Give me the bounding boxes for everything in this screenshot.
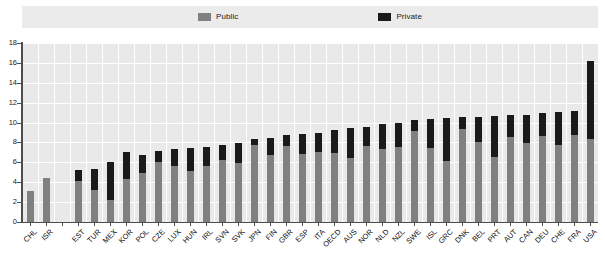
x-axis-tick: [366, 223, 367, 226]
bar-segment-public: [203, 166, 210, 222]
x-axis-tick-label: SVN: [214, 228, 230, 244]
bar-segment-public: [27, 191, 34, 222]
bar-segment-public: [267, 155, 274, 222]
x-axis-tick-label: AUT: [502, 228, 518, 244]
bar-segment-private: [475, 117, 482, 143]
bar-group: [203, 43, 210, 222]
bar-segment-private: [91, 169, 98, 190]
bar-group: [443, 43, 450, 222]
bar-segment-public: [491, 157, 498, 222]
x-axis-tick: [254, 223, 255, 226]
x-axis-tick: [510, 223, 511, 226]
bar-group: [411, 43, 418, 222]
x-axis-tick-label: EST: [71, 228, 87, 244]
x-axis-tick: [334, 223, 335, 226]
bar-segment-public: [283, 146, 290, 222]
bar-segment-private: [299, 134, 306, 155]
x-axis-tick: [110, 223, 111, 226]
x-axis-tick: [382, 223, 383, 226]
x-axis-tick-label: NLD: [374, 228, 390, 244]
bar-segment-public: [347, 158, 354, 222]
bar-segment-private: [171, 149, 178, 166]
bar-segment-public: [123, 179, 130, 222]
bar-segment-private: [587, 61, 594, 140]
bar-segment-private: [411, 120, 418, 131]
bar-segment-private: [267, 138, 274, 155]
x-axis-tick-label: GBR: [277, 228, 294, 245]
square-swatch-icon: [378, 13, 391, 21]
bar-group: [555, 43, 562, 222]
bar-group: [571, 43, 578, 222]
x-axis-tick: [526, 223, 527, 226]
bar-segment-private: [155, 151, 162, 162]
x-axis-tick: [318, 223, 319, 226]
x-axis-tick: [286, 223, 287, 226]
x-axis-tick-label: AUS: [342, 228, 358, 244]
bar-segment-private: [395, 123, 402, 148]
bar-segment-public: [315, 152, 322, 222]
bar-segment-private: [107, 162, 114, 200]
bar-group: [139, 43, 146, 222]
x-axis-tick: [558, 223, 559, 226]
bar-group: [91, 43, 98, 222]
bar-group: [267, 43, 274, 222]
x-axis-tick-label: NZL: [391, 228, 406, 243]
x-axis-tick-label: DEU: [534, 228, 551, 245]
bar-group: [475, 43, 482, 222]
legend-label-private: Private: [396, 13, 422, 21]
bar-group: [587, 43, 594, 222]
bar-segment-private: [379, 124, 386, 150]
x-axis-tick: [94, 223, 95, 226]
bar-segment-public: [299, 154, 306, 222]
bar-segment-private: [283, 135, 290, 147]
bar-segment-private: [539, 113, 546, 137]
bar-group: [235, 43, 242, 222]
bar-group: [539, 43, 546, 222]
legend-item-public: Public: [198, 13, 238, 21]
y-axis-tick-label: 8: [1, 138, 17, 146]
bar-segment-public: [395, 147, 402, 222]
x-axis-tick-label: SVK: [230, 228, 246, 244]
x-axis-tick-label: FRA: [566, 228, 582, 244]
bar-group: [27, 43, 34, 222]
x-axis-tick: [446, 223, 447, 226]
x-axis-tick-label: SWE: [405, 228, 422, 245]
bar-group: [315, 43, 322, 222]
x-axis-tick-label: CZE: [150, 228, 166, 244]
bar-segment-public: [459, 129, 466, 222]
bar-segment-private: [315, 133, 322, 153]
bar-segment-public: [539, 136, 546, 222]
bar-segment-private: [219, 145, 226, 160]
x-axis-tick: [350, 223, 351, 226]
bar-segment-private: [75, 170, 82, 181]
bar-segment-public: [427, 148, 434, 222]
x-axis-tick: [30, 223, 31, 226]
x-axis-tick: [158, 223, 159, 226]
x-axis-tick: [206, 223, 207, 226]
y-axis-tick-label: 6: [1, 158, 17, 166]
x-axis-tick: [494, 223, 495, 226]
bar-segment-public: [171, 166, 178, 222]
x-axis-tick: [126, 223, 127, 226]
x-axis-tick: [302, 223, 303, 226]
bar-segment-public: [555, 145, 562, 222]
x-axis-tick: [78, 223, 79, 226]
bars-layer: [22, 43, 598, 222]
y-axis-tick-label: 2: [1, 198, 17, 206]
x-axis-tick-label: JPN: [247, 228, 262, 243]
x-axis-tick: [270, 223, 271, 226]
x-axis-tick: [142, 223, 143, 226]
bar-group: [155, 43, 162, 222]
bar-segment-private: [555, 112, 562, 146]
bar-group: [187, 43, 194, 222]
bar-group: [459, 43, 466, 222]
bar-group: [507, 43, 514, 222]
x-axis-tick-label: POL: [134, 228, 150, 244]
bar-segment-private: [363, 127, 370, 147]
bar-segment-private: [331, 130, 338, 154]
bar-segment-public: [219, 160, 226, 222]
bar-group: [171, 43, 178, 222]
x-axis-tick-label: IRL: [201, 228, 215, 242]
bar-group: [283, 43, 290, 222]
bar-segment-private: [427, 119, 434, 149]
